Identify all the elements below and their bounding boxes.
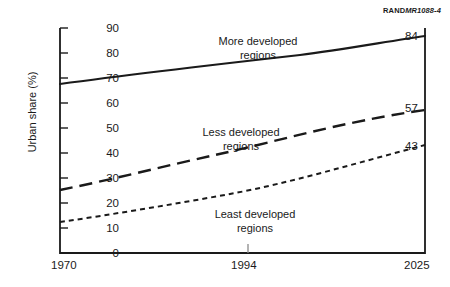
series-annotation-line2: regions (197, 222, 313, 236)
end-value-more-developed: 84 (405, 30, 418, 42)
series-annotation-line1: Less developed (186, 126, 296, 140)
end-value-least-developed: 43 (405, 140, 418, 152)
y-axis-ticks (60, 28, 68, 228)
series-annotation-least-developed: Least developed regions (197, 208, 313, 236)
series-annotation-less-developed: Less developed regions (186, 126, 296, 154)
end-value-less-developed: 57 (405, 102, 418, 114)
series-annotation-more-developed: More developed regions (203, 35, 313, 63)
series-annotation-line1: More developed (203, 35, 313, 49)
series-annotation-line1: Least developed (197, 208, 313, 222)
series-annotation-line2: regions (186, 140, 296, 154)
chart-figure: RANDMR1088-4 Urban share (%) 90 80 70 60… (0, 0, 450, 287)
series-annotation-line2: regions (203, 49, 313, 63)
